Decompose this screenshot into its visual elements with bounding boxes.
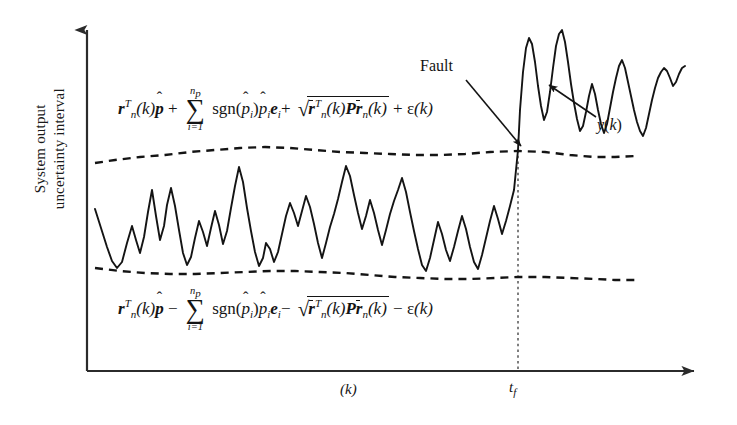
formula-upper-summation: np∑i=1 — [186, 99, 205, 121]
formula-lower-sqrt-r: r — [308, 299, 315, 318]
formula-lower-sqrt-r2: r — [356, 299, 363, 318]
lower-bound-formula: rTn(k)ˆp − np∑i=1 sgn(ˆpi)ˆpiei− √rTn(k)… — [118, 296, 433, 321]
formula-lower-sum-symbol: ∑ — [186, 299, 205, 321]
formula-lower-sqrt-of-k2: (k) — [368, 299, 387, 318]
lower-uncertainty-envelope — [95, 268, 635, 280]
fault-label: Fault — [420, 57, 453, 75]
formula-lower-r: r — [118, 299, 125, 318]
formula-lower-sgn-p: p — [242, 299, 251, 318]
formula-upper-sqrt-r2: r — [356, 99, 363, 118]
formula-upper-r: r — [118, 99, 125, 118]
formula-upper-rbar-overline — [309, 100, 313, 101]
formula-upper-epsilon: ε — [407, 99, 414, 118]
formula-lower-radicand: rTn(k)Prn(k) — [307, 296, 389, 320]
formula-upper-sqrt-P: P — [345, 99, 355, 118]
formula-upper-of-k: (k) — [136, 99, 155, 118]
formula-upper-sum-lower-limit: i=1 — [188, 122, 203, 133]
formula-lower-sqrt-P: P — [345, 299, 355, 318]
formula-lower-epsilon-of-k: (k) — [414, 299, 433, 318]
formula-lower-minus-1: − — [168, 299, 178, 318]
fault-time-label: tf — [509, 379, 516, 398]
formula-upper-radicand: rTn(k)Prn(k) — [307, 96, 389, 120]
formula-lower-p: p — [155, 299, 164, 318]
formula-upper-sum-upper-limit: np — [190, 86, 201, 99]
upper-bound-formula: rTn(k)ˆp + np∑i=1 sgn(ˆpi)ˆpiei+ √rTn(k)… — [118, 96, 433, 121]
formula-upper-rbar2-overline — [356, 100, 360, 101]
formula-lower-epsilon: ε — [407, 299, 414, 318]
signal-label-yk: y(k) — [597, 116, 622, 134]
formula-lower-sum-lower-limit: i=1 — [188, 322, 203, 333]
formula-upper-sqrt-of-k2: (k) — [368, 99, 387, 118]
formula-upper-p: p — [155, 99, 164, 118]
formula-upper-sgn: sgn — [212, 99, 236, 118]
formula-upper-sqrt-r: r — [308, 99, 315, 118]
formula-lower-sqrt-of-k: (k) — [327, 299, 346, 318]
system-output-signal-curve — [95, 30, 685, 271]
formula-lower-sgn: sgn — [212, 299, 236, 318]
x-axis-label: (k) — [340, 381, 357, 398]
formula-upper-sqrt-of-k: (k) — [327, 99, 346, 118]
signal-label-paren-close: ) — [617, 116, 622, 133]
formula-lower-sum-upper-limit: np — [190, 286, 201, 299]
formula-upper-plus-2: + — [281, 99, 291, 118]
formula-lower-rbar2-overline — [356, 300, 360, 301]
formula-upper-ei: e — [270, 99, 278, 118]
formula-lower-rbar-overline — [309, 300, 313, 301]
fault-annotation-arrow — [466, 80, 521, 146]
formula-upper-epsilon-of-k: (k) — [414, 99, 433, 118]
formula-lower-minus-3: − — [393, 299, 403, 318]
fault-time-sub-f: f — [513, 386, 516, 398]
formula-lower-ei: e — [270, 299, 278, 318]
signal-label-k: k — [609, 116, 616, 133]
plot-canvas — [0, 0, 737, 425]
figure-container: System output uncertainty interval — [0, 0, 737, 425]
formula-lower-sqrt: √rTn(k)Prn(k) — [296, 296, 389, 320]
formula-upper-sgn-p: p — [242, 99, 251, 118]
formula-lower-pi: p — [259, 299, 268, 318]
formula-lower-minus-2: − — [281, 299, 291, 318]
formula-upper-plus-3: + — [393, 99, 403, 118]
formula-upper-sqrt: √rTn(k)Prn(k) — [296, 96, 389, 120]
formula-upper-plus-1: + — [168, 99, 178, 118]
formula-upper-sum-symbol: ∑ — [186, 99, 205, 121]
upper-uncertainty-envelope — [95, 147, 635, 163]
formula-lower-of-k: (k) — [136, 299, 155, 318]
formula-lower-summation: np∑i=1 — [186, 299, 205, 321]
formula-upper-pi: p — [259, 99, 268, 118]
